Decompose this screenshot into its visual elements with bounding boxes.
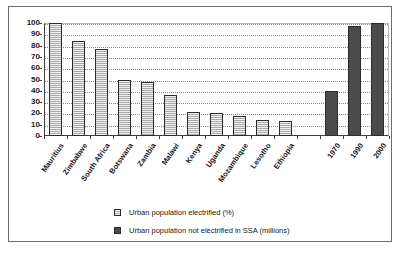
x-tick-mark [320,136,321,139]
x-axis-label: Lesotho [250,142,273,170]
x-tick-mark [297,136,298,139]
y-tick-mark [39,91,42,92]
x-tick-mark [136,136,137,139]
x-tick-mark [251,136,252,139]
y-axis: 0102030405060708090100 [17,23,42,136]
x-tick-mark [343,136,344,139]
x-axis-label: Kenya [185,142,204,165]
bar [371,23,384,136]
bar [348,26,361,136]
x-tick-mark [113,136,114,139]
y-tick-mark [39,136,42,137]
chart-frame: 0102030405060708090100 MauritiusZimbabwe… [8,6,392,242]
bar [118,80,131,137]
x-tick-mark [90,136,91,139]
x-tick-mark [228,136,229,139]
x-tick-mark [274,136,275,139]
bar [279,121,292,136]
y-tick-mark [39,46,42,47]
y-tick-mark [39,68,42,69]
y-tick-mark [39,80,42,81]
x-tick-mark [366,136,367,139]
x-axis-label: Uganda [205,142,227,169]
legend-label: Urban population electrified (%) [129,209,234,217]
x-axis-label: 2000 [372,142,388,160]
bar-group [44,23,389,136]
x-axis-label: 1990 [349,142,365,160]
bar [141,82,154,136]
bar [49,23,62,136]
y-tick-mark [39,57,42,58]
x-tick-mark [205,136,206,139]
x-tick-mark [67,136,68,139]
legend-swatch-icon [114,227,121,234]
y-tick-mark [39,125,42,126]
x-axis-labels: MauritiusZimbabweSouth AfricaBotswanaZam… [44,140,389,198]
legend-swatch-icon [114,209,121,216]
x-axis-label: 1970 [326,142,342,160]
chart-figure: 0102030405060708090100 MauritiusZimbabwe… [0,0,402,258]
bar [72,41,85,136]
legend: Urban population electrified (%)Urban po… [114,205,364,241]
y-tick-mark [39,34,42,35]
bar [325,91,338,136]
bar [210,113,223,136]
y-tick-mark [39,102,42,103]
x-axis-label: Ethiopia [273,142,296,171]
x-tick-mark [159,136,160,139]
x-tick-mark [389,136,390,139]
legend-item: Urban population electrified (%) [114,205,364,220]
bar [95,49,108,136]
x-axis-label: Malawi [160,142,181,167]
bar [164,95,177,136]
y-tick-mark [39,113,42,114]
bar [233,116,246,136]
x-tick-mark [44,136,45,139]
legend-item: Urban population not electrified in SSA … [114,223,364,238]
x-axis-label: Botswana [108,142,135,176]
x-axis-label: Zambia [136,142,158,168]
y-tick-label: 100 [27,19,40,27]
y-tick-mark [39,23,42,24]
bar [187,112,200,136]
x-tick-mark [182,136,183,139]
bar [256,120,269,136]
legend-label: Urban population not electrified in SSA … [129,227,290,235]
